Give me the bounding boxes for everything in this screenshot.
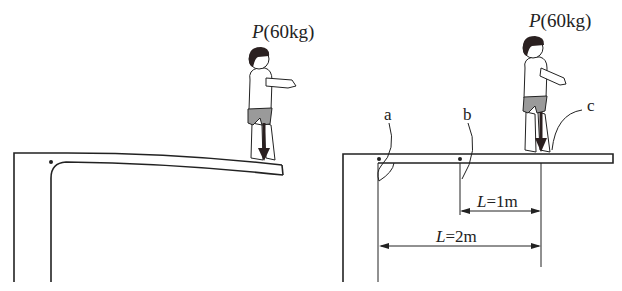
right-diving-board [343, 154, 613, 282]
pivot-a-dot [377, 157, 381, 161]
left-diving-board [14, 153, 283, 282]
dimension-2m-value: =2m [445, 227, 476, 246]
left-person-figure [248, 47, 296, 161]
dimension-1m-label: L=1m [475, 193, 520, 210]
left-person-symbol: P [252, 21, 264, 42]
dimension-2m-label: L=2m [434, 228, 479, 245]
point-b-label: b [463, 106, 472, 123]
left-person-mass: (60kg) [264, 21, 315, 42]
leader-c [552, 110, 582, 150]
leader-b [462, 123, 473, 179]
point-a-label: a [384, 106, 392, 123]
right-person-figure [523, 36, 566, 152]
left-pivot-dot [49, 160, 53, 164]
pivot-b-dot [458, 157, 462, 161]
diagram-canvas [0, 0, 622, 291]
point-c-label: c [587, 97, 595, 114]
dimension-1m-value: =1m [486, 192, 517, 211]
leader-a [378, 123, 394, 181]
right-person-label: P(60kg) [529, 11, 591, 30]
right-person-mass: (60kg) [541, 10, 592, 31]
right-person-symbol: P [529, 10, 541, 31]
left-person-label: P(60kg) [252, 22, 314, 41]
